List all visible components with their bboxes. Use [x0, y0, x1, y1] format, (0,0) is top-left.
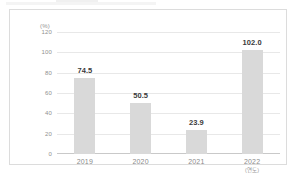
bar[interactable]: 74.5 — [74, 78, 95, 154]
y-axis-tick-label: 60 — [45, 90, 52, 96]
y-axis-tick-label: 120 — [41, 29, 52, 35]
y-axis-tick-label: 80 — [45, 70, 52, 76]
bar-slot: 23.9 — [169, 32, 225, 154]
bar-slot: 74.5 — [57, 32, 113, 154]
y-axis-tick-label: 100 — [41, 49, 52, 55]
x-axis-tick-label: 2020 — [113, 158, 169, 165]
bar-value-label: 50.5 — [133, 91, 148, 100]
chart-frame: (%) 120100806040200 74.550.523.9102.0 20… — [9, 9, 287, 165]
bar-slot: 50.5 — [113, 32, 169, 154]
x-axis-tick-label: 2022 — [224, 158, 280, 165]
clipped-top-artifact — [6, 2, 156, 5]
x-axis-tick-label: 2019 — [57, 158, 113, 165]
bar[interactable]: 23.9 — [186, 130, 207, 154]
y-axis-tick-label: 0 — [48, 151, 52, 157]
bar-series: 74.550.523.9102.0 — [57, 32, 280, 154]
x-axis-unit-label: (연도) — [224, 166, 280, 174]
x-axis-label-slot: 2021 — [169, 158, 225, 174]
bar-value-label: 102.0 — [242, 38, 261, 47]
x-axis-labels: 2019202020212022(연도) — [57, 158, 280, 174]
bar-value-label: 23.9 — [189, 118, 204, 127]
x-axis-label-slot: 2022(연도) — [224, 158, 280, 174]
bar-slot: 102.0 — [224, 32, 280, 154]
bar-value-label: 74.5 — [77, 66, 92, 75]
clipped-top-artifact-secondary — [56, 0, 98, 2]
x-axis-label-slot: 2019 — [57, 158, 113, 174]
bar[interactable]: 50.5 — [130, 103, 151, 154]
x-axis-label-slot: 2020 — [113, 158, 169, 174]
y-axis-tick-label: 20 — [45, 131, 52, 137]
chart-page: (%) 120100806040200 74.550.523.9102.0 20… — [0, 0, 296, 174]
plot-area: 120100806040200 74.550.523.9102.0 — [57, 32, 280, 154]
x-axis-tick-label: 2021 — [169, 158, 225, 165]
bar[interactable]: 102.0 — [242, 50, 263, 154]
y-axis-tick-label: 40 — [45, 110, 52, 116]
